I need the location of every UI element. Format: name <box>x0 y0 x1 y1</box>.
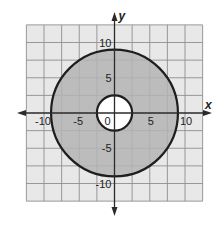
x-tick-label: 5 <box>148 115 154 127</box>
y-tick-label: -5 <box>102 142 112 154</box>
x-tick-label: 10 <box>180 115 192 127</box>
y-tick-label: 5 <box>105 72 111 84</box>
x-axis-label: x <box>204 98 213 112</box>
x-axis-left-arrow-icon <box>17 110 26 116</box>
y-axis-down-arrow-icon <box>112 207 118 216</box>
x-tick-label: -5 <box>73 115 83 127</box>
y-tick-label: -10 <box>96 178 112 190</box>
x-tick-label: -10 <box>35 115 51 127</box>
y-tick-label: 10 <box>99 37 111 49</box>
coordinate-plane: -10-5510105-5-10 x y 0 <box>0 0 223 226</box>
y-axis-label: y <box>118 9 127 23</box>
origin-label: 0 <box>104 115 110 127</box>
y-axis-up-arrow-icon <box>112 12 118 21</box>
